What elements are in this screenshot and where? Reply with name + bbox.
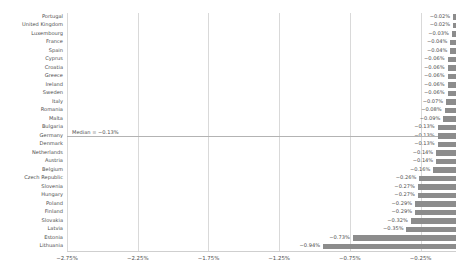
category-label: Lithuania [39, 241, 63, 249]
x-tick-label: −2.75% [56, 255, 78, 261]
bar-value-label: −0.09% [420, 114, 440, 122]
bar-chart: Portugal−0.02%United Kingdom−0.02%Luxemb… [0, 0, 464, 278]
category-label: United Kingdom [22, 20, 63, 28]
bar-value-label: −0.73% [329, 233, 349, 241]
category-label: Luxembourg [31, 29, 63, 37]
bar-value-label: −0.94% [300, 241, 320, 249]
bar-row: Luxembourg−0.03% [67, 30, 456, 39]
category-label: Slovakia [42, 216, 63, 224]
category-label: Estonia [44, 233, 63, 241]
category-label: Slovenia [41, 182, 63, 190]
x-tick-label: −1.75% [198, 255, 220, 261]
bar [446, 99, 456, 105]
bar-row: Malta−0.09% [67, 115, 456, 124]
bar-value-label: −0.02% [430, 12, 450, 20]
bar-value-label: −0.06% [424, 71, 444, 79]
x-tick-label: −1.25% [268, 255, 290, 261]
category-label: Cyprus [45, 54, 63, 62]
bar-value-label: −0.04% [427, 46, 447, 54]
bar [436, 150, 456, 156]
category-label: Greece [45, 71, 63, 79]
bar [436, 159, 456, 165]
bar-value-label: −0.06% [424, 63, 444, 71]
bar-row: United Kingdom−0.02% [67, 22, 456, 31]
bar-row: Netherlands−0.14% [67, 149, 456, 158]
category-label: Portugal [42, 12, 63, 20]
bar [448, 65, 456, 71]
category-label: Latvia [47, 224, 63, 232]
x-tick-label: −0.75% [339, 255, 361, 261]
bar-row: Greece−0.06% [67, 73, 456, 82]
bar [448, 57, 456, 63]
plot-area: Portugal−0.02%United Kingdom−0.02%Luxemb… [67, 13, 456, 251]
bar-value-label: −0.07% [423, 97, 443, 105]
bar [453, 23, 456, 29]
bar-value-label: −0.13% [414, 122, 434, 130]
bar-value-label: −0.06% [424, 80, 444, 88]
bar [448, 91, 456, 97]
x-tick-label: −0.25% [410, 255, 432, 261]
category-label: Czech Republic [24, 173, 63, 181]
bar-value-label: −0.02% [430, 20, 450, 28]
bar-value-label: −0.32% [387, 216, 407, 224]
category-label: Sweden [43, 88, 63, 96]
bar-row: France−0.04% [67, 39, 456, 48]
category-label: Germany [40, 131, 63, 139]
category-label: Italy [52, 97, 63, 105]
category-label: Malta [49, 114, 63, 122]
category-label: Denmark [40, 139, 63, 147]
category-label: Croatia [45, 63, 63, 71]
bar-row: Spain−0.04% [67, 47, 456, 56]
bar-row: Sweden−0.06% [67, 90, 456, 99]
category-label: France [46, 37, 63, 45]
bar [450, 48, 456, 54]
category-label: Poland [46, 199, 63, 207]
bar [450, 40, 456, 46]
category-label: Bulgaria [42, 122, 63, 130]
bar-value-label: −0.27% [394, 190, 414, 198]
category-label: Finland [45, 207, 63, 215]
bar-value-label: −0.06% [424, 54, 444, 62]
bar-row: Romania−0.08% [67, 107, 456, 116]
category-label: Romania [41, 105, 63, 113]
bar-value-label: −0.27% [394, 182, 414, 190]
bar-row: Latvia−0.35% [67, 226, 456, 235]
category-label: Hungary [41, 190, 63, 198]
bar-value-label: −0.13% [414, 139, 434, 147]
median-annotation-label: Median = −0.13% [72, 129, 118, 135]
category-label: Ireland [45, 80, 63, 88]
bar-value-label: −0.14% [413, 148, 433, 156]
bar-value-label: −0.13% [414, 131, 434, 139]
bar-row: Italy−0.07% [67, 98, 456, 107]
bar-row: Croatia−0.06% [67, 64, 456, 73]
bar-row: Cyprus−0.06% [67, 56, 456, 65]
bar [448, 82, 456, 88]
bar-value-label: −0.08% [421, 105, 441, 113]
bar-row: Estonia−0.73% [67, 234, 456, 243]
bar [438, 125, 456, 131]
bar-value-label: −0.29% [392, 199, 412, 207]
bar [411, 218, 456, 224]
x-axis-line [67, 251, 456, 252]
x-tick-label: −2.25% [127, 255, 149, 261]
category-label: Belgium [42, 165, 63, 173]
bar-value-label: −0.29% [392, 207, 412, 215]
category-label: Spain [49, 46, 63, 54]
bar [448, 74, 456, 80]
bar [323, 244, 456, 250]
category-label: Austria [45, 156, 63, 164]
bar [353, 235, 456, 241]
bar-row: Bulgaria−0.13% [67, 124, 456, 133]
bar [438, 133, 456, 139]
bar [415, 201, 456, 207]
bar-value-label: −0.03% [428, 29, 448, 37]
bar-row: Portugal−0.02% [67, 13, 456, 22]
bar [453, 14, 456, 20]
median-line [67, 136, 438, 137]
bar-value-label: −0.06% [424, 88, 444, 96]
bar-row: Denmark−0.13% [67, 141, 456, 150]
bar-value-label: −0.16% [410, 165, 430, 173]
bar [406, 227, 456, 233]
bar [443, 116, 456, 122]
bar-value-label: −0.35% [383, 224, 403, 232]
